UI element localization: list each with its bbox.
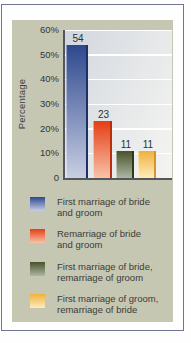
legend-swatch-blue — [30, 197, 45, 211]
bar-2 — [116, 151, 134, 178]
chart-figure: Percentage 60% 50% 40% 30% 20% 10% 0 542… — [0, 0, 191, 343]
legend-item: First marriage of bride and groom — [30, 196, 150, 218]
y-tick-label: 60% — [32, 25, 59, 35]
bar-value-label: 11 — [143, 139, 153, 150]
y-tick-label: 30% — [32, 99, 59, 109]
bar-value-label: 23 — [98, 109, 109, 120]
y-tick-label: 20% — [32, 124, 59, 134]
plot-area: 54231111 — [63, 30, 172, 180]
y-tick-label: 40% — [32, 74, 59, 84]
legend-swatch-green — [30, 262, 45, 276]
legend-label: Remarriage of bride and groom — [57, 228, 141, 250]
bar-value-label: 54 — [72, 33, 83, 44]
legend-label: First marriage of bride and groom — [57, 196, 150, 218]
bar-1 — [93, 121, 112, 178]
bar-3 — [138, 151, 156, 178]
legend-label: First marriage of groom, remarriage of b… — [57, 293, 158, 315]
y-axis-title: Percentage — [16, 79, 27, 130]
legend-swatch-red — [30, 229, 45, 243]
y-tick-label: 10% — [32, 148, 59, 158]
bar-value-label: 11 — [121, 139, 131, 150]
bar-0 — [66, 45, 88, 178]
legend-item: First marriage of groom, remarriage of b… — [30, 293, 158, 315]
gridline — [65, 30, 172, 32]
legend-item: Remarriage of bride and groom — [30, 228, 141, 250]
y-tick-label: 50% — [32, 50, 59, 60]
legend-item: First marriage of bride, remarriage of g… — [30, 261, 153, 283]
y-tick-label: 0 — [32, 173, 59, 183]
legend-label: First marriage of bride, remarriage of g… — [57, 261, 153, 283]
legend-swatch-yellow — [30, 294, 45, 308]
